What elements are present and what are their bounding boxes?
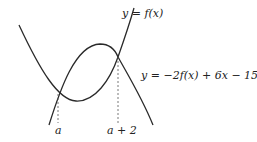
label-g-curve: y = −2f(x) + 6x − 15 — [140, 69, 257, 82]
curve-g — [49, 44, 153, 125]
graph-diagram: y = f(x) y = −2f(x) + 6x − 15 a a + 2 — [0, 0, 257, 142]
label-f-curve: y = f(x) — [121, 7, 163, 20]
label-x-a: a — [55, 124, 62, 137]
label-x-a2: a + 2 — [107, 124, 137, 137]
